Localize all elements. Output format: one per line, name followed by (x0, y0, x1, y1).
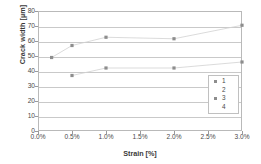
x-tick-label: 0.0% (20, 134, 56, 141)
legend-row: 2 (211, 86, 236, 95)
x-tick-mark (72, 131, 73, 134)
legend-label: 1 (222, 78, 226, 84)
legend-marker-swatch (214, 80, 217, 83)
legend-key (211, 103, 222, 111)
legend-label: 3 (222, 95, 226, 101)
gridline (39, 117, 241, 118)
y-tick-label: 30 (5, 83, 35, 90)
x-tick-label: 3.0% (224, 134, 260, 141)
y-tick-label: 70 (5, 23, 35, 30)
x-tick-label: 2.5% (190, 134, 226, 141)
legend-marker-swatch (214, 97, 217, 100)
gridline (39, 57, 241, 58)
x-tick-mark (106, 131, 107, 134)
y-tick-label: 40 (5, 68, 35, 75)
x-tick-mark (208, 131, 209, 134)
y-tick-label: 80 (5, 8, 35, 15)
x-tick-mark (174, 131, 175, 134)
x-tick-label: 0.5% (54, 134, 90, 141)
legend-key (211, 77, 222, 85)
legend-key (211, 86, 222, 94)
gridline (39, 27, 241, 28)
legend-label: 4 (222, 104, 226, 110)
x-tick-label: 2.0% (156, 134, 192, 141)
x-tick-mark (242, 131, 243, 134)
legend-row: 4 (211, 103, 236, 112)
y-tick-label: 20 (5, 98, 35, 105)
chart-legend: 1234 (208, 75, 239, 114)
gridline (39, 42, 241, 43)
legend-row: 3 (211, 94, 236, 103)
crack-width-strain-chart: Crack width [µm] 01020304050607080 0.0%0… (0, 0, 261, 164)
x-tick-label: 1.5% (122, 134, 158, 141)
x-tick-mark (140, 131, 141, 134)
legend-row: 1 (211, 77, 236, 86)
x-tick-label: 1.0% (88, 134, 124, 141)
y-tick-label: 60 (5, 38, 35, 45)
x-axis-title: Strain [%] (36, 149, 244, 158)
x-tick-mark (38, 131, 39, 134)
y-tick-label: 50 (5, 53, 35, 60)
legend-label: 2 (222, 87, 226, 93)
y-tick-label: 10 (5, 113, 35, 120)
gridline (39, 72, 241, 73)
legend-key (211, 94, 222, 102)
